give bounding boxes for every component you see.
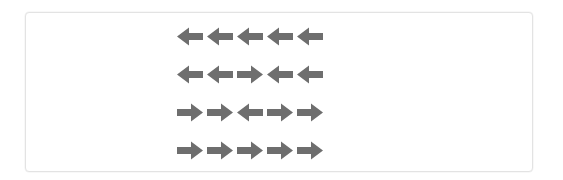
arrow-left-icon: [237, 103, 263, 122]
flanker-arrow-row-4-1: [175, 139, 205, 161]
arrow-right-icon: [177, 141, 203, 160]
arrow-right-icon: [267, 141, 293, 160]
target-arrow-row-2: [235, 63, 265, 85]
arrow-row-2: [26, 55, 532, 93]
arrow-row-3: [26, 93, 532, 131]
flanker-arrow-row-1-4: [265, 25, 295, 47]
arrow-right-icon: [297, 141, 323, 160]
flanker-arrow-row-2-5: [295, 63, 325, 85]
arrow-left-icon: [207, 65, 233, 84]
arrow-left-icon: [267, 27, 293, 46]
arrow-right-icon: [207, 141, 233, 160]
flanker-arrow-row-4-5: [295, 139, 325, 161]
flanker-arrow-row-3-4: [265, 101, 295, 123]
arrow-left-icon: [207, 27, 233, 46]
flanker-arrow-row-2-1: [175, 63, 205, 85]
flanker-stimulus-panel: [25, 12, 533, 172]
flanker-arrow-row-4-4: [265, 139, 295, 161]
arrow-right-icon: [237, 141, 263, 160]
arrow-right-icon: [177, 103, 203, 122]
arrow-left-icon: [177, 27, 203, 46]
flanker-arrow-row-1-5: [295, 25, 325, 47]
arrow-left-icon: [267, 65, 293, 84]
flanker-arrow-row-4-2: [205, 139, 235, 161]
arrow-right-icon: [297, 103, 323, 122]
flanker-arrow-row-3-2: [205, 101, 235, 123]
arrow-left-icon: [237, 27, 263, 46]
target-arrow-row-4: [235, 139, 265, 161]
flanker-arrow-row-2-4: [265, 63, 295, 85]
arrow-right-icon: [267, 103, 293, 122]
arrow-row-4: [26, 131, 532, 169]
arrow-left-icon: [297, 65, 323, 84]
arrow-left-icon: [297, 27, 323, 46]
flanker-arrow-row-3-5: [295, 101, 325, 123]
flanker-arrow-row-3-1: [175, 101, 205, 123]
arrow-right-icon: [207, 103, 233, 122]
arrow-row-list: [26, 13, 532, 171]
target-arrow-row-3: [235, 101, 265, 123]
arrow-left-icon: [177, 65, 203, 84]
target-arrow-row-1: [235, 25, 265, 47]
arrow-row-1: [26, 17, 532, 55]
arrow-right-icon: [237, 65, 263, 84]
flanker-arrow-row-2-2: [205, 63, 235, 85]
flanker-arrow-row-1-2: [205, 25, 235, 47]
flanker-arrow-row-1-1: [175, 25, 205, 47]
